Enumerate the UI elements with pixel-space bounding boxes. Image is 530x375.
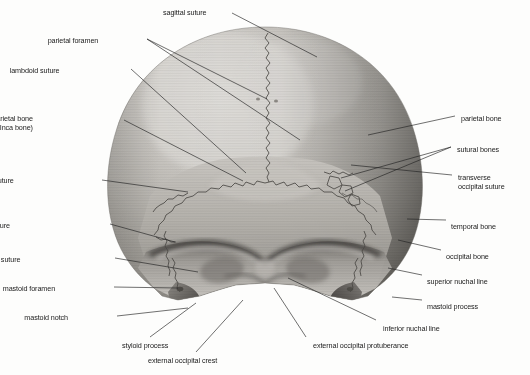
label-occipital-bone: occipital bone [446, 252, 489, 261]
label-superior-nuchal-line: superior nuchal line [427, 277, 488, 286]
anatomy-figure-canvas: sagittal sutureparietal foramenlambdoid … [0, 0, 530, 375]
label-inferior-nuchal-line: inferior nuchal line [383, 324, 440, 333]
styloid-process-spike [199, 305, 206, 320]
leader-external-occipital-crest [196, 300, 243, 352]
label-mastoid-foramen: mastoid foramen [3, 284, 55, 293]
mastoid-notch-groove-right [329, 300, 334, 317]
label-interparietal-bone: interparietal bone (Inca bone) [0, 114, 33, 133]
label-parietal-foramen: parietal foramen [47, 36, 98, 45]
label-styloid-process: styloid process [122, 341, 168, 350]
label-external-occipital-crest: external occipital crest [148, 356, 217, 365]
label-parietomastoid-suture: parietomastoid suture [0, 221, 10, 230]
leader-external-occipital-protuberance [274, 288, 306, 337]
label-mastoid-process: mastoid process [427, 302, 478, 311]
foramen-magnum-shadow [238, 286, 292, 297]
leader-mastoid-process [392, 297, 422, 300]
label-occipitomastoid-suture: occipitomastoid suture [0, 255, 20, 264]
label-squamous-suture: squamous suture [0, 176, 14, 185]
label-temporal-bone: temporal bone [451, 222, 496, 231]
label-mastoid-notch: mastoid notch [24, 313, 68, 322]
leader-mastoid-notch [117, 308, 188, 316]
label-sutural-bones: sutural bones [457, 145, 499, 154]
leader-styloid-process [150, 303, 196, 337]
skull-body [100, 20, 430, 320]
label-external-occipital-protuberance: external occipital protuberance [313, 341, 408, 350]
mastoid-notch-groove [196, 300, 201, 317]
label-lambdoid-suture: lambdoid suture [10, 66, 60, 75]
halftone-texture [100, 20, 430, 315]
label-transverse-occipital-suture: transverse occipital suture [458, 173, 505, 192]
label-sagittal-suture: sagittal suture [163, 8, 206, 17]
label-parietal-bone: parietal bone [461, 114, 501, 123]
skull-posterior-illustration [0, 0, 530, 375]
